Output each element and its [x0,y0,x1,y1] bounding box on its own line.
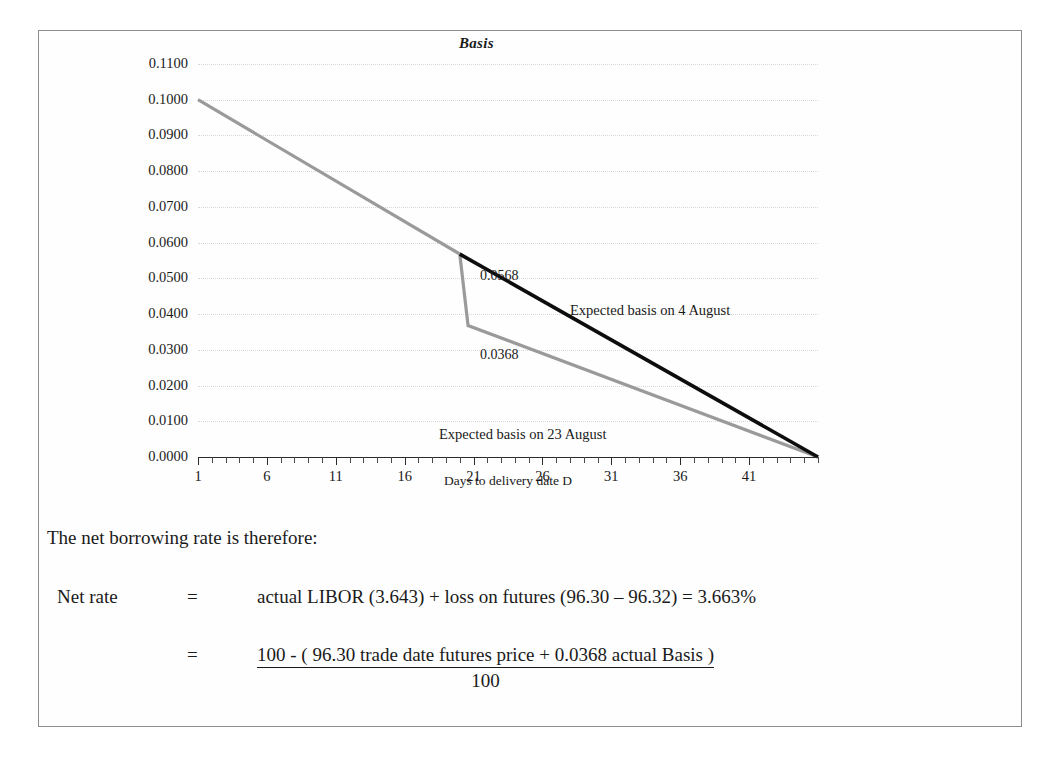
x-axis-minor-tick [460,457,461,463]
x-axis-major-tick [267,457,268,465]
y-axis-tick-label: 0.0800 [118,162,188,179]
x-axis-minor-tick [639,457,640,463]
y-axis-tick-label: 0.0100 [118,412,188,429]
x-axis-minor-tick [515,457,516,463]
y-axis-tick-label: 0.0600 [118,234,188,251]
y-axis-tick-label: 0.0400 [118,305,188,322]
x-axis-minor-tick [322,457,323,463]
x-axis-title: Days to delivery date D [198,473,818,489]
series-plot [198,64,818,464]
x-axis-minor-tick [350,457,351,463]
x-axis-minor-tick [790,457,791,463]
document-frame: Basis 0.11000.10000.09000.08000.07000.06… [38,30,1022,727]
body-text-block: The net borrowing rate is therefore: Net… [39,511,1023,728]
annotation-series-23-august: Expected basis on 23 August [439,426,607,443]
x-axis-major-tick [611,457,612,465]
fraction-numerator: 100 - ( 96.30 trade date futures price +… [257,644,714,668]
x-axis-minor-tick [212,457,213,463]
x-axis-minor-tick [708,457,709,463]
x-axis-minor-tick [570,457,571,463]
x-axis-minor-tick [363,457,364,463]
net-rate-fraction: 100 - ( 96.30 trade date futures price +… [257,644,714,692]
x-axis-minor-tick [501,457,502,463]
annotation-series-4-august: Expected basis on 4 August [570,302,730,319]
x-axis-major-tick [749,457,750,465]
y-axis-tick-label: 0.1100 [118,55,188,72]
x-axis-minor-tick [735,457,736,463]
x-axis-minor-tick [653,457,654,463]
net-rate-expression: actual LIBOR (3.643) + loss on futures (… [257,586,756,608]
x-axis-major-tick [680,457,681,465]
x-axis-minor-tick [818,457,819,463]
equals-sign-first: = [187,586,198,608]
chart-title: Basis [459,35,494,52]
x-axis-minor-tick [294,457,295,463]
y-axis-tick-label: 0.0500 [118,270,188,287]
x-axis-minor-tick [625,457,626,463]
x-axis-minor-tick [694,457,695,463]
x-axis-minor-tick [418,457,419,463]
x-axis-minor-tick [763,457,764,463]
plot-area: 0.11000.10000.09000.08000.07000.06000.05… [198,64,818,457]
x-axis-minor-tick [666,457,667,463]
y-axis-tick-label: 0.0300 [118,341,188,358]
x-axis-minor-tick [432,457,433,463]
x-axis-minor-tick [777,457,778,463]
x-axis-minor-tick [584,457,585,463]
x-axis-major-tick [474,457,475,465]
x-axis-major-tick [405,457,406,465]
x-axis-major-tick [198,457,199,465]
fraction-denominator: 100 [257,668,714,692]
x-axis-major-tick [336,457,337,465]
x-axis-minor-tick [281,457,282,463]
x-axis-line [198,457,819,458]
annotation-0368: 0.0368 [480,347,519,363]
net-rate-label: Net rate [57,586,118,608]
equals-sign-second: = [187,644,198,666]
y-axis-tick-label: 0.0000 [118,448,188,465]
x-axis-minor-tick [487,457,488,463]
x-axis-minor-tick [253,457,254,463]
y-axis-tick-label: 0.0200 [118,377,188,394]
y-axis-tick-label: 0.0700 [118,198,188,215]
annotation-0568: 0.0568 [480,268,519,284]
x-axis-minor-tick [226,457,227,463]
x-axis-major-tick [542,457,543,465]
y-axis-tick-label: 0.1000 [118,91,188,108]
x-axis-minor-tick [239,457,240,463]
x-axis-minor-tick [391,457,392,463]
x-axis-minor-tick [804,457,805,463]
intro-sentence: The net borrowing rate is therefore: [47,527,318,549]
y-axis-tick-label: 0.0900 [118,127,188,144]
x-axis-minor-tick [308,457,309,463]
x-axis-minor-tick [556,457,557,463]
x-axis-minor-tick [446,457,447,463]
x-axis-minor-tick [598,457,599,463]
x-axis-minor-tick [529,457,530,463]
x-axis-minor-tick [722,457,723,463]
x-axis-minor-tick [377,457,378,463]
basis-chart: Basis 0.11000.10000.09000.08000.07000.06… [39,31,1023,511]
